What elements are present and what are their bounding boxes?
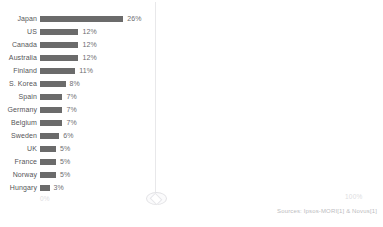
bar-row: Australia12%: [0, 51, 383, 64]
bar-track: 26%: [40, 12, 360, 25]
bar-chart: Japan26%US12%Canada12%Australia12%Finlan…: [0, 0, 383, 227]
bar-value-label: 8%: [70, 78, 80, 89]
bar: [40, 16, 123, 22]
bar: [40, 120, 62, 126]
bar-value-label: 5%: [60, 156, 70, 167]
bar-track: 7%: [40, 90, 360, 103]
bar: [40, 81, 66, 87]
bar-track: 6%: [40, 129, 360, 142]
bar-category-label: Finland: [0, 66, 37, 75]
bar-row: S. Korea8%: [0, 77, 383, 90]
bar-track: 8%: [40, 77, 360, 90]
bar-row: US12%: [0, 25, 383, 38]
bar-value-label: 7%: [66, 117, 76, 128]
bar-row: UK5%: [0, 142, 383, 155]
bar-category-label: Germany: [0, 105, 37, 114]
bar: [40, 29, 78, 35]
bar-row: Germany7%: [0, 103, 383, 116]
bar-category-label: US: [0, 27, 37, 36]
bar-value-label: 5%: [60, 143, 70, 154]
bar-value-label: 6%: [63, 130, 73, 141]
bar-track: 11%: [40, 64, 360, 77]
bar-value-label: 11%: [79, 65, 93, 76]
bar-track: 12%: [40, 51, 360, 64]
bar-row: Sweden6%: [0, 129, 383, 142]
bar-track: 3%: [40, 181, 360, 194]
bar: [40, 107, 62, 113]
axis-min-label: 0%: [40, 195, 50, 202]
bar-row: France5%: [0, 155, 383, 168]
bar-row: Finland11%: [0, 64, 383, 77]
bar-category-label: Hungary: [0, 183, 37, 192]
bar-category-label: France: [0, 157, 37, 166]
bar-row: Canada12%: [0, 38, 383, 51]
bar-row: Norway5%: [0, 168, 383, 181]
bar-category-label: Canada: [0, 40, 37, 49]
bar: [40, 94, 62, 100]
bar-track: 12%: [40, 38, 360, 51]
bar-track: 5%: [40, 142, 360, 155]
bar: [40, 42, 78, 48]
bar-track: 5%: [40, 168, 360, 181]
source-note: Sources: Ipsos-MORI[1] & Novus[1]: [277, 208, 377, 214]
bar: [40, 55, 78, 61]
bar-value-label: 12%: [82, 52, 96, 63]
bar: [40, 68, 75, 74]
bar-row: Hungary3%: [0, 181, 383, 194]
bar-category-label: Japan: [0, 14, 37, 23]
bar: [40, 133, 59, 139]
bar-value-label: 3%: [54, 182, 64, 193]
bar-row: Spain7%: [0, 90, 383, 103]
bar-value-label: 7%: [66, 91, 76, 102]
bar: [40, 172, 56, 178]
axis-max-label: 100%: [345, 193, 362, 200]
bar-row: Belgium7%: [0, 116, 383, 129]
bar-track: 5%: [40, 155, 360, 168]
bar-category-label: Norway: [0, 170, 37, 179]
bar-category-label: Belgium: [0, 118, 37, 127]
bar-category-label: Spain: [0, 92, 37, 101]
plot-area: Japan26%US12%Canada12%Australia12%Finlan…: [0, 12, 383, 194]
bar-track: 12%: [40, 25, 360, 38]
bar-value-label: 12%: [82, 26, 96, 37]
bar-track: 7%: [40, 103, 360, 116]
bar-value-label: 5%: [60, 169, 70, 180]
bar-value-label: 7%: [66, 104, 76, 115]
bar-category-label: S. Korea: [0, 79, 37, 88]
bar-category-label: Australia: [0, 53, 37, 62]
bar-value-label: 12%: [82, 39, 96, 50]
bar-row: Japan26%: [0, 12, 383, 25]
bar: [40, 185, 50, 191]
bar-category-label: Sweden: [0, 131, 37, 140]
bar: [40, 146, 56, 152]
bar-category-label: UK: [0, 144, 37, 153]
bar-track: 7%: [40, 116, 360, 129]
bar-value-label: 26%: [127, 13, 141, 24]
bar: [40, 159, 56, 165]
